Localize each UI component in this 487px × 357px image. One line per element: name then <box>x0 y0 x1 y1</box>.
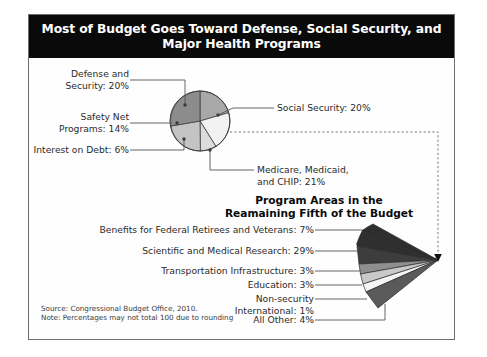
label-medicare-line1: Medicare, Medicaid, <box>257 164 349 176</box>
label-benefits: Benefits for Federal Retirees and Vetera… <box>29 224 314 236</box>
main-pie <box>170 91 230 151</box>
label-social-security: Social Security: 20% <box>277 102 371 114</box>
subheading-line1: Program Areas in the <box>219 194 419 207</box>
dot-safety-net <box>175 121 178 124</box>
label-medicare: Medicare, Medicaid, and CHIP: 21% <box>257 164 349 187</box>
dot-medicare <box>208 148 211 151</box>
label-defense: Defense and Security: 20% <box>29 68 129 91</box>
label-nonsecurity-line1: Non-security <box>29 293 314 305</box>
leader-defense <box>130 80 185 105</box>
figure-container: Most of Budget Goes Toward Defense, Soci… <box>28 14 455 340</box>
label-education: Education: 3% <box>29 279 314 291</box>
subheading-line2: Reamaining Fifth of the Budget <box>219 207 419 220</box>
leader-medicare <box>210 150 254 170</box>
label-safety-net-line2: Programs: 14% <box>29 123 129 135</box>
plot-area: Defense and Security: 20% Social Securit… <box>29 58 454 340</box>
label-safety-net: Safety Net Programs: 14% <box>29 111 129 134</box>
dot-social-security <box>216 113 219 116</box>
source-note: Source: Congressional Budget Office, 201… <box>41 304 233 313</box>
label-safety-net-line1: Safety Net <box>29 111 129 123</box>
exploded-wedge <box>357 224 439 308</box>
section-subheading: Program Areas in the Reamaining Fifth of… <box>219 194 419 219</box>
dot-interest <box>182 137 185 140</box>
label-research: Scientific and Medical Research: 29% <box>29 245 314 257</box>
dot-defense <box>183 103 186 106</box>
rounding-note: Note: Percentages may not total 100 due … <box>41 313 233 322</box>
chart-title: Most of Budget Goes Toward Defense, Soci… <box>29 15 454 58</box>
label-medicare-line2: and CHIP: 21% <box>257 176 349 188</box>
leader-interest <box>130 139 184 150</box>
label-transportation: Transportation Infrastructure: 3% <box>29 265 314 277</box>
leader-allother <box>315 304 385 320</box>
label-defense-line1: Defense and <box>29 68 129 80</box>
footnote: Source: Congressional Budget Office, 201… <box>41 304 233 323</box>
label-interest-on-debt: Interest on Debt: 6% <box>29 144 129 156</box>
label-defense-line2: Security: 20% <box>29 80 129 92</box>
